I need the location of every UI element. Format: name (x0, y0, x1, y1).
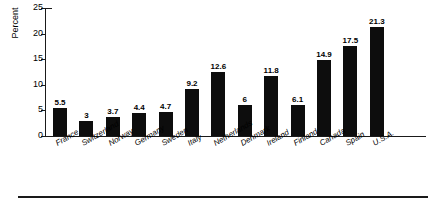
bar-column: 5.5 (53, 8, 67, 136)
bar-column: 12.6 (211, 8, 225, 136)
bar (211, 72, 225, 137)
bar-chart-figure: Percent 0510152025 5.533.74.44.79.212.66… (0, 0, 444, 211)
y-tick-label: 25 (33, 2, 43, 13)
bar-column: 3.7 (106, 8, 120, 136)
y-axis-title: Percent (10, 0, 24, 58)
bar-column: 21.3 (370, 8, 384, 136)
y-tick-label: 0 (38, 130, 43, 141)
bar-column: 4.7 (159, 8, 173, 136)
bottom-divider-rule (18, 196, 428, 198)
plot-area: 0510152025 5.533.74.44.79.212.6611.86.11… (45, 8, 426, 137)
bar-column: 6.1 (291, 8, 305, 136)
bar-value-label: 9.2 (186, 79, 197, 88)
y-tick-label: 15 (33, 53, 43, 64)
bar (53, 108, 67, 136)
bar-column: 4.4 (132, 8, 146, 136)
bar-column: 11.8 (264, 8, 278, 136)
bar-value-label: 6.1 (292, 95, 303, 104)
bar-value-label: 21.3 (369, 17, 385, 26)
bar-column: 9.2 (185, 8, 199, 136)
bar-value-label: 17.5 (343, 36, 359, 45)
bar-column: 3 (79, 8, 93, 136)
bar-column: 6 (238, 8, 252, 136)
frame-top-stub (45, 8, 52, 9)
bar (343, 46, 357, 136)
bar-value-label: 6 (243, 95, 247, 104)
bar-value-label: 4.4 (134, 103, 145, 112)
bar-value-label: 4.7 (160, 102, 171, 111)
y-tick-label: 5 (38, 104, 43, 115)
bar-value-label: 12.6 (211, 62, 227, 71)
bar (370, 27, 384, 136)
bar-value-label: 14.9 (316, 50, 332, 59)
bar-value-label: 3.7 (107, 107, 118, 116)
bar-value-label: 3 (84, 111, 88, 120)
bar-value-label: 5.5 (54, 98, 65, 107)
bar (317, 60, 331, 136)
y-axis-line (45, 8, 46, 137)
bar-column: 14.9 (317, 8, 331, 136)
y-tick-label: 20 (33, 28, 43, 39)
y-tick-label: 10 (33, 79, 43, 90)
bar-value-label: 11.8 (264, 66, 279, 75)
bar-column: 17.5 (343, 8, 357, 136)
bar (291, 105, 305, 136)
